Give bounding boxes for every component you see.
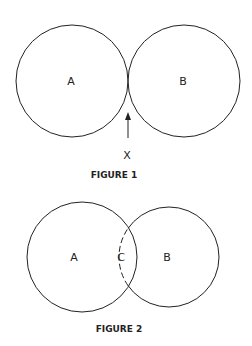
figure-2: A C B FIGURE 2	[27, 202, 219, 334]
circle-a-label: A	[67, 75, 75, 88]
arrow-label: X	[123, 149, 131, 162]
circle-b-label: B	[163, 251, 171, 264]
diagram-canvas: A B X FIGURE 1 A C B FIGURE 2	[0, 0, 252, 346]
figure-2-caption: FIGURE 2	[96, 324, 143, 334]
figure-1-caption: FIGURE 1	[91, 170, 138, 180]
overlap-label: C	[117, 251, 125, 264]
figure-1: A B X FIGURE 1	[16, 25, 240, 180]
circle-a-label: A	[70, 251, 78, 264]
arrow-up-icon	[125, 112, 131, 138]
circle-b-label: B	[179, 75, 187, 88]
